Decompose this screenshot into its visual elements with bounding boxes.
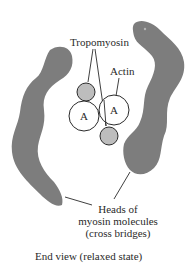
tropomyosin-label: Tropomyosin [70, 36, 129, 48]
tropomyosin-bottom [100, 127, 118, 145]
myosin-heads-label: Heads of myosin molecules (cross bridges… [70, 203, 166, 239]
tropomyosin-leader-1 [88, 49, 93, 82]
diagram-caption: End view (relaxed state) [35, 250, 142, 262]
myosin-head-leader-right [114, 172, 130, 199]
actin-letter-left: A [80, 110, 88, 122]
tropomyosin-top [77, 83, 95, 101]
myosin-heads-label-line-1: Heads of [70, 203, 166, 215]
actin-label: Actin [110, 65, 134, 77]
myosin-heads-label-line-2: myosin molecules [70, 215, 166, 227]
myosin-head-right [123, 21, 184, 174]
myosin-head-left [12, 47, 73, 206]
actin-leader [116, 78, 119, 96]
actin-letter-right: A [110, 104, 118, 116]
myosin-heads-label-line-3: (cross bridges) [70, 227, 166, 239]
